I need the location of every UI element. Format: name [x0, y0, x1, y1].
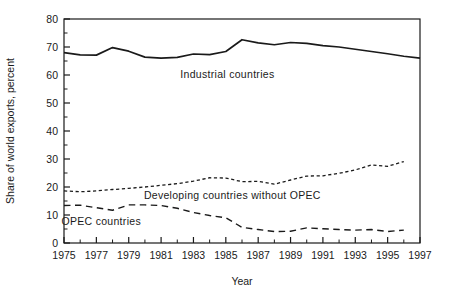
y-tick-label: 50 [46, 97, 58, 109]
x-tick-label: 1977 [85, 249, 109, 261]
x-tick-label: 1979 [117, 249, 141, 261]
x-tick-label: 1983 [182, 249, 206, 261]
chart-container: 01020304050607080 1975197719791981198319… [0, 0, 450, 293]
x-tick-label: 1989 [279, 249, 303, 261]
y-tick-label: 60 [46, 69, 58, 81]
y-tick-label: 40 [46, 125, 58, 137]
x-tick-label: 1985 [214, 249, 238, 261]
series-label: OPEC countries [61, 215, 140, 227]
x-tick-label: 1995 [376, 249, 400, 261]
y-tick-label: 80 [46, 13, 58, 25]
y-tick-label: 70 [46, 41, 58, 53]
line-chart-figure: 01020304050607080 1975197719791981198319… [0, 0, 450, 293]
y-axis-title: Share of world exports, percent [4, 58, 16, 204]
y-tick-label: 0 [52, 237, 58, 249]
x-tick-label: 1981 [149, 249, 173, 261]
y-tick-label: 30 [46, 153, 58, 165]
y-axis-tick-labels: 01020304050607080 [46, 13, 58, 249]
y-tick-label: 10 [46, 209, 58, 221]
x-tick-label: 1993 [344, 249, 368, 261]
series-label: Industrial countries [180, 68, 274, 80]
x-tick-label: 1987 [247, 249, 271, 261]
series-label: Developing countries without OPEC [144, 189, 321, 201]
x-tick-label: 1997 [408, 249, 432, 261]
x-tick-label: 1975 [52, 249, 76, 261]
y-tick-label: 20 [46, 181, 58, 193]
x-axis-title: Year [231, 275, 253, 287]
x-tick-label: 1991 [311, 249, 335, 261]
